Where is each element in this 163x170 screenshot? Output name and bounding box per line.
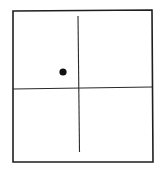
- outer-frame: [13, 10, 153, 162]
- diagram-svg: [0, 0, 163, 170]
- horizontal-divider-line: [13, 87, 152, 89]
- quadrant-diagram: [0, 0, 163, 170]
- data-point-dot: [59, 68, 66, 75]
- vertical-divider-line: [78, 16, 80, 152]
